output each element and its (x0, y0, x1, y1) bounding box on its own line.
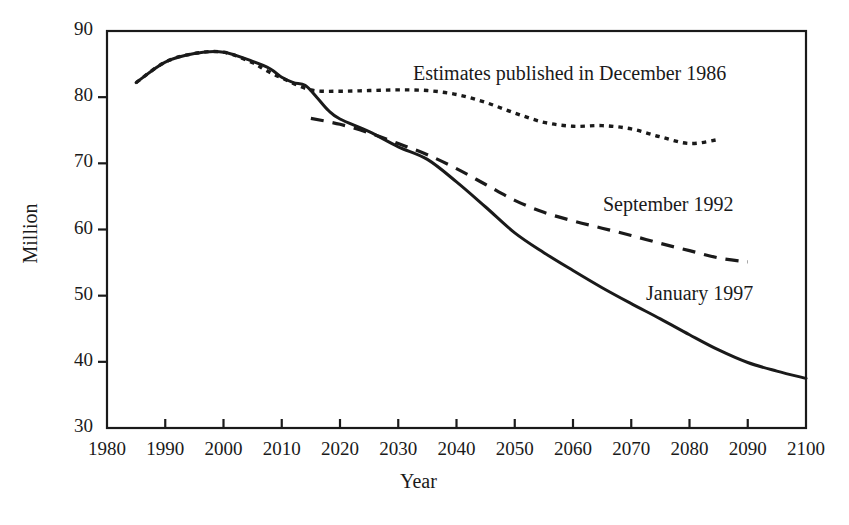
plot-area (0, 0, 849, 525)
population-projection-chart: Million Year 90807060504030 198019902000… (0, 0, 849, 525)
axis-ticks (98, 97, 748, 428)
series-line-dotted (136, 51, 719, 143)
series-line-solid (136, 52, 806, 379)
data-series (136, 51, 806, 378)
series-line-dashed (311, 118, 748, 262)
plot-frame-rect (107, 31, 806, 428)
plot-frame (107, 31, 806, 428)
